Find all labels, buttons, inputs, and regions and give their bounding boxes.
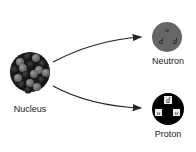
proton-quark-2: u [157,109,161,117]
nucleus-icon [10,52,50,94]
nucleus-label: Nucleus [8,104,52,114]
proton-quark-3: u [175,109,179,117]
neutron-label: Neutron [146,56,190,66]
arrow-to-proton [53,86,141,108]
neutron-icon: u d d [152,22,182,52]
proton-label: Proton [146,129,190,139]
proton-icon: d u u [152,93,184,125]
neutron-quark-1: u [165,26,169,34]
arrow-to-neutron [53,37,141,62]
